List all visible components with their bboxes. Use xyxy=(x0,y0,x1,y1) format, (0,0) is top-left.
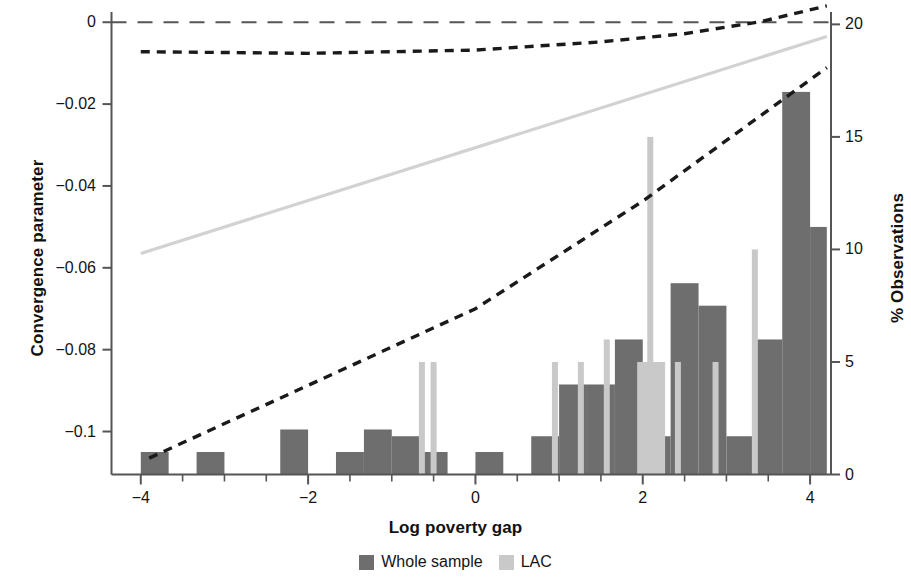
bar-whole-sample xyxy=(671,283,699,474)
bar-whole-sample xyxy=(699,306,727,475)
x-axis-tick-label: −2 xyxy=(299,489,317,507)
bar-lac xyxy=(604,339,610,474)
legend-item: LAC xyxy=(499,553,552,571)
bar-whole-sample xyxy=(336,452,364,475)
legend-swatch-icon xyxy=(359,555,374,570)
convergence-poverty-gap-figure: Convergence parameter % Observations Log… xyxy=(0,0,911,580)
legend-label: Whole sample xyxy=(381,553,482,571)
y-axis-right-tick-label: 20 xyxy=(845,15,863,33)
legend-swatch-icon xyxy=(499,555,514,570)
legend-label: LAC xyxy=(521,553,552,571)
y-axis-left-tick-label: 0 xyxy=(0,13,96,31)
bar-lac xyxy=(647,137,653,475)
x-axis-title: Log poverty gap xyxy=(0,518,911,538)
bar-whole-sample xyxy=(280,429,308,474)
chart-legend: Whole sampleLAC xyxy=(0,553,911,571)
y-axis-right-tick-label: 0 xyxy=(845,466,854,484)
bar-whole-sample xyxy=(810,227,827,475)
y-axis-left-tick-label: −0.06 xyxy=(0,259,96,277)
bar-lac xyxy=(675,362,681,475)
bar-lac xyxy=(752,249,758,474)
x-axis-tick-label: 0 xyxy=(471,489,480,507)
bar-whole-sample xyxy=(726,436,754,474)
y-axis-right-tick-label: 10 xyxy=(845,240,863,258)
y-axis-left-tick-label: −0.04 xyxy=(0,177,96,195)
bar-lac xyxy=(419,362,425,475)
bar-lac xyxy=(713,362,719,475)
y-axis-right-tick-label: 5 xyxy=(845,353,854,371)
bar-whole-sample xyxy=(475,452,503,475)
bar-whole-sample xyxy=(587,384,615,474)
x-axis-tick-label: 2 xyxy=(638,489,647,507)
bar-whole-sample xyxy=(197,452,225,475)
fitted-regression-line xyxy=(141,37,827,254)
x-axis-tick-label: −4 xyxy=(132,489,150,507)
y-axis-left-tick-label: −0.02 xyxy=(0,95,96,113)
x-axis-tick-label: 4 xyxy=(806,489,815,507)
bar-whole-sample xyxy=(782,92,810,475)
bar-lac xyxy=(578,362,584,475)
bar-lac xyxy=(431,362,437,475)
bar-lac xyxy=(552,362,558,475)
y-axis-right-title: % Observations xyxy=(888,128,908,388)
upper-confidence-bound-line xyxy=(141,6,827,53)
bar-whole-sample xyxy=(392,436,420,474)
y-axis-left-tick-label: −0.08 xyxy=(0,341,96,359)
bar-whole-sample xyxy=(754,339,782,474)
y-axis-left-tick-label: −0.1 xyxy=(0,423,96,441)
bar-whole-sample xyxy=(364,429,392,474)
y-axis-right-tick-label: 15 xyxy=(845,128,863,146)
legend-item: Whole sample xyxy=(359,553,482,571)
